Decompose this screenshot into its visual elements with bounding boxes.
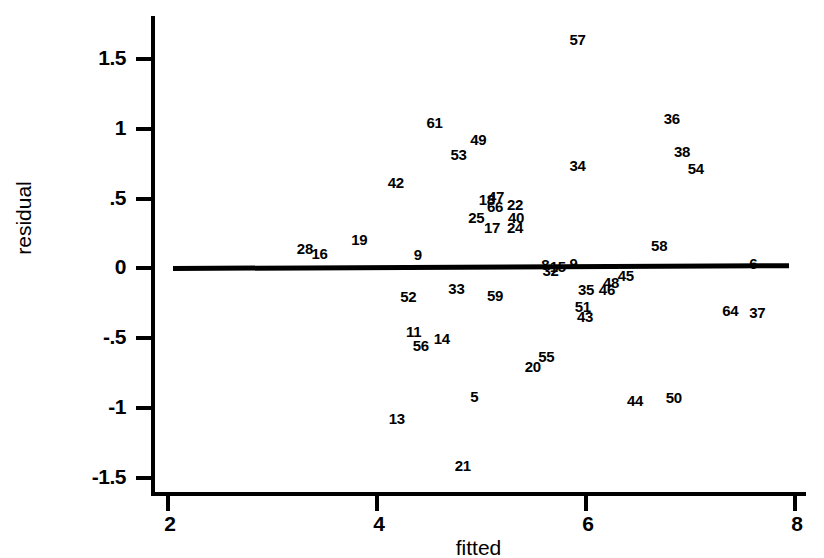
y-tick-mark: [136, 266, 152, 270]
x-tick-mark: [584, 496, 588, 511]
x-tick-mark: [793, 496, 797, 511]
point-label: 50: [666, 388, 682, 405]
y-tick-label: -1.5: [66, 465, 126, 489]
y-tick-label: 1.5: [66, 46, 126, 70]
point-label: 13: [389, 409, 405, 426]
x-tick-label: 6: [568, 512, 608, 536]
x-axis-title: fitted: [151, 536, 806, 558]
point-label: 58: [651, 236, 667, 253]
point-label: 16: [311, 245, 327, 262]
point-label: 17: [484, 218, 500, 235]
y-tick-label: -1: [66, 395, 126, 419]
point-label: 57: [570, 31, 586, 48]
point-label: 64: [722, 302, 738, 319]
point-label: 5: [470, 387, 478, 404]
point-label: 19: [351, 231, 367, 248]
point-label: 42: [388, 173, 404, 190]
zero-reference-line: [173, 264, 789, 272]
y-axis-title: residual: [12, 148, 36, 288]
point-label: 33: [448, 280, 464, 297]
point-label: 61: [426, 113, 442, 130]
point-label: 52: [400, 288, 416, 305]
point-label: 56: [413, 337, 429, 354]
point-label: 44: [627, 391, 643, 408]
y-tick-mark: [136, 336, 152, 340]
y-tick-mark: [136, 197, 152, 201]
y-tick-mark: [136, 57, 152, 61]
x-tick-mark: [166, 496, 170, 511]
y-tick-mark: [136, 476, 152, 480]
point-label: 9: [414, 246, 422, 263]
y-axis-line: [151, 16, 155, 496]
point-label: 45: [618, 267, 634, 284]
x-axis-line: [151, 492, 806, 496]
point-label: 6: [749, 254, 757, 271]
point-label: 9: [569, 254, 577, 271]
x-tick-label: 4: [359, 512, 399, 536]
y-tick-label: 1: [66, 116, 126, 140]
point-label: 59: [487, 287, 503, 304]
point-label: 46: [599, 281, 615, 298]
point-label: 37: [749, 303, 765, 320]
point-label: 14: [434, 330, 450, 347]
y-tick-label: -.5: [66, 325, 126, 349]
residual-plot: 1.51.50-.5-1-1.5 2468 residual fitted 57…: [0, 0, 824, 558]
point-label: 25: [468, 208, 484, 225]
point-label: 21: [455, 457, 471, 474]
point-label: 24: [507, 218, 523, 235]
point-label: 66: [487, 197, 503, 214]
point-label: 38: [674, 143, 690, 160]
y-tick-label: .5: [66, 186, 126, 210]
point-label: 54: [688, 159, 704, 176]
point-label: 49: [470, 130, 486, 147]
y-tick-mark: [136, 127, 152, 131]
x-tick-label: 8: [777, 512, 817, 536]
x-tick-label: 2: [150, 512, 190, 536]
point-label: 34: [570, 157, 586, 174]
point-label: 20: [525, 358, 541, 375]
point-label: 36: [664, 109, 680, 126]
y-tick-mark: [136, 406, 152, 410]
x-tick-mark: [375, 496, 379, 511]
point-label: 53: [450, 145, 466, 162]
point-label: 43: [577, 307, 593, 324]
point-label: 35: [578, 281, 594, 298]
y-tick-label: 0: [66, 255, 126, 279]
point-label: 15: [550, 257, 566, 274]
